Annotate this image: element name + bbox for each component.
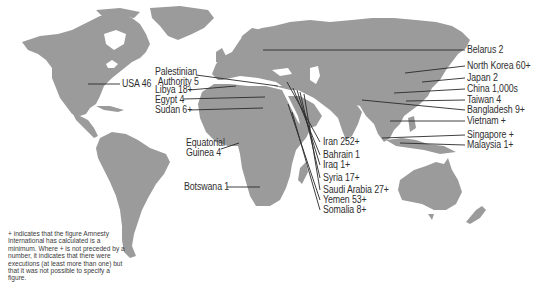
footnote: + indicates that the figure Amnesty Inte…: [8, 230, 128, 282]
madagascar-landmass: [298, 162, 308, 184]
philippines-landmass: [408, 116, 416, 132]
india-landmass: [338, 104, 362, 140]
label-botswana: Botswana 1: [184, 182, 229, 192]
label-syria: Syria 17+: [323, 173, 360, 183]
label-china: China 1,000s: [467, 84, 518, 94]
new-zealand-landmass: [466, 206, 486, 224]
label-somalia: Somalia 8+: [323, 205, 366, 215]
north-america-landmass: [22, 14, 150, 116]
australia-landmass: [398, 158, 462, 210]
southeast-asia-islands: [386, 138, 456, 154]
greenland-landmass: [150, 6, 214, 40]
label-vietnam: Vietnam +: [467, 116, 506, 126]
label-equatorial-guinea: Equatorial Guinea 4: [186, 138, 225, 157]
label-sudan: Sudan 6+: [155, 105, 192, 115]
tasmania-landmass: [428, 214, 434, 220]
label-bangladesh: Bangladesh 9+: [467, 105, 525, 115]
label-iraq: Iraq 1+: [323, 160, 350, 170]
central-america-landmass: [72, 112, 98, 138]
caribbean-islands: [96, 106, 124, 112]
leader-singapore: [382, 135, 465, 138]
label-north-korea: North Korea 60+: [467, 61, 531, 71]
label-iran: Iran 252+: [323, 137, 360, 147]
label-usa: USA 46: [122, 79, 151, 89]
label-malaysia: Malaysia 1+: [467, 140, 513, 150]
label-japan: Japan 2: [467, 73, 498, 83]
label-belarus: Belarus 2: [467, 45, 503, 55]
label-equatorial-guinea-line2: Guinea 4: [186, 148, 225, 158]
